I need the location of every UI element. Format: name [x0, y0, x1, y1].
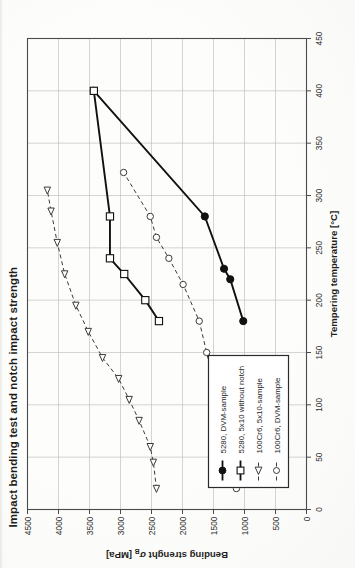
y-tick-label: 2000 — [178, 516, 188, 535]
y-tick-label: 0 — [302, 516, 312, 521]
x-tick-label: 250 — [314, 241, 324, 255]
data-point — [120, 169, 126, 175]
data-point — [220, 265, 227, 272]
data-point — [180, 281, 186, 287]
data-point — [153, 234, 159, 240]
y-tick-label: 3500 — [85, 516, 95, 535]
series-line — [94, 91, 243, 321]
chart-figure: Impact bending test and notch impact str… — [1, 0, 355, 568]
x-tick-label: 300 — [314, 188, 324, 202]
data-point — [90, 87, 97, 94]
data-point — [227, 276, 234, 283]
legend-label: 100Cr6, DVM-sample — [273, 377, 282, 453]
data-point — [106, 213, 113, 220]
data-point — [73, 302, 79, 309]
data-point — [48, 208, 54, 215]
x-tick-label: 350 — [314, 136, 324, 150]
x-tick-label: 50 — [314, 452, 324, 462]
data-point — [115, 375, 121, 382]
y-tick-label: 4500 — [23, 516, 33, 535]
legend-label: 5280, DVM-sample — [219, 385, 228, 453]
data-point — [166, 255, 172, 261]
data-point — [240, 318, 247, 325]
data-point — [201, 213, 208, 220]
data-point — [203, 349, 209, 355]
data-point — [85, 328, 91, 335]
y-tick-label: 1500 — [209, 516, 219, 535]
scanned-page: Impact bending test and notch impact str… — [0, 0, 355, 568]
y-tick-label: 4000 — [54, 516, 64, 535]
y-tick-label: 2500 — [147, 516, 157, 535]
data-point — [147, 444, 153, 451]
data-point — [121, 270, 128, 277]
data-point — [136, 417, 142, 424]
rotated-figure-wrapper: Impact bending test and notch impact str… — [1, 0, 355, 568]
x-tick-label: 0 — [314, 507, 324, 512]
data-point — [150, 459, 156, 466]
series-line — [94, 91, 159, 321]
data-point — [54, 239, 60, 246]
x-tick-label: 150 — [314, 345, 324, 359]
data-point — [62, 271, 68, 278]
x-tick-label: 450 — [314, 31, 324, 45]
data-point — [147, 213, 153, 219]
data-point — [44, 187, 50, 194]
x-axis-title: Tempering temperature [°C] — [328, 211, 339, 337]
data-point — [196, 318, 202, 324]
x-tick-label: 400 — [314, 84, 324, 98]
chart-canvas: 0501001502002503003504004500500100015002… — [1, 0, 355, 568]
x-tick-label: 200 — [314, 293, 324, 307]
data-point — [106, 255, 113, 262]
data-point — [142, 297, 149, 304]
x-tick-label: 100 — [314, 398, 324, 412]
series-2 — [44, 187, 160, 492]
y-tick-label: 500 — [271, 516, 281, 530]
data-point — [155, 318, 162, 325]
legend-label: 5280, 5x10 without notch — [237, 366, 246, 454]
y-tick-label: 3000 — [116, 516, 126, 535]
y-tick-label: 1000 — [240, 516, 250, 535]
series-0 — [90, 87, 247, 324]
series-line — [47, 190, 156, 488]
chart-legend: 5280, DVM-sample5280, 5x10 without notch… — [209, 356, 289, 488]
data-point — [126, 396, 132, 403]
legend-label: 100Cr6, 5x10-sample — [255, 377, 264, 453]
y-axis-title: Bending strenght σB [MPa] — [106, 548, 228, 560]
data-point — [153, 485, 159, 492]
